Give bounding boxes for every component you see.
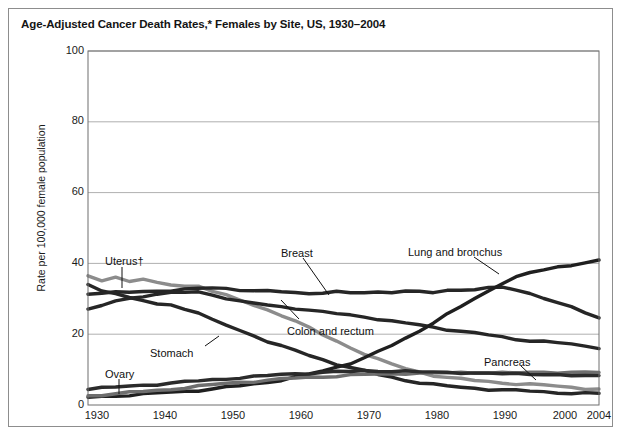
series-label-lung-and-bronchus: Lung and bronchus [408,247,502,258]
series-label-ovary: Ovary [105,369,134,380]
leader-line-stomach [205,336,219,346]
x-tick-1990: 1990 [477,409,533,421]
series-line-ovary [88,371,599,390]
y-tick-40: 40 [54,257,84,268]
y-axis-tick-labels: 100 80 60 40 20 0 [54,9,84,428]
x-tick-1930: 1930 [69,409,125,421]
y-tick-20: 20 [54,328,84,339]
series-label-stomach: Stomach [150,348,193,359]
x-tick-1980: 1980 [409,409,465,421]
x-tick-1970: 1970 [341,409,397,421]
figure-frame: Age-Adjusted Cancer Death Rates,* Female… [8,8,613,427]
x-tick-1940: 1940 [137,409,193,421]
y-tick-100: 100 [54,45,84,56]
series-label-pancreas: Pancreas [484,357,530,368]
leader-line-lung-and-bronchus [474,257,499,274]
series-label-breast: Breast [281,248,313,259]
y-axis-title: Rate per 100,000 female population [35,108,47,308]
series-line-colon-and-rectum [88,292,599,349]
x-tick-1950: 1950 [205,409,261,421]
x-tick-1960: 1960 [273,409,329,421]
chart-plot-area: Rate per 100,000 female population 100 8… [9,9,614,428]
y-tick-60: 60 [54,186,84,197]
x-tick-2004: 2004 [576,409,621,421]
y-tick-80: 80 [54,115,84,126]
series-label-uterus: Uterus† [105,256,144,267]
series-label-colon-and-rectum: Colon and rectum [287,326,374,337]
